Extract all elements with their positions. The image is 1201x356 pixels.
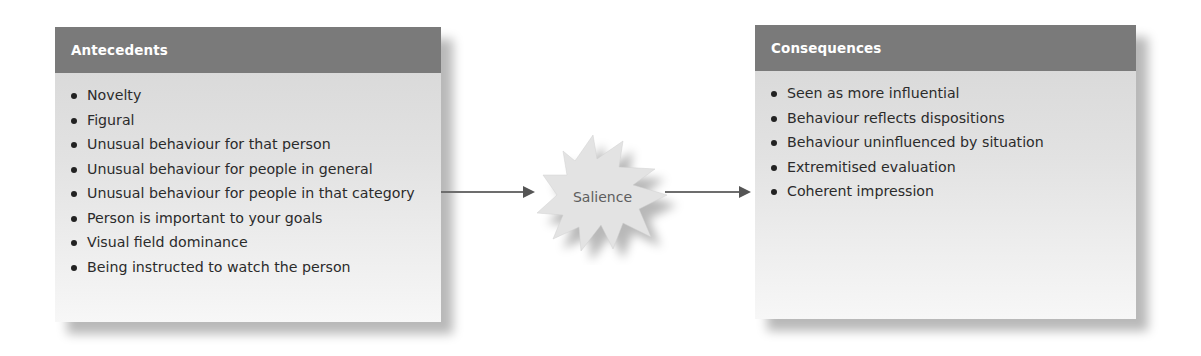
antecedent-item: Unusual behaviour for people in that cat… xyxy=(71,181,431,206)
antecedent-item: Visual field dominance xyxy=(71,230,431,255)
antecedents-list: Novelty Figural Unusual behaviour for th… xyxy=(55,73,441,279)
antecedent-item: Unusual behaviour for people in general xyxy=(71,157,431,182)
antecedent-item: Unusual behaviour for that person xyxy=(71,132,431,157)
consequence-item: Extremitised evaluation xyxy=(771,155,1126,180)
consequences-panel: Consequences Seen as more influential Be… xyxy=(755,25,1136,319)
arrow-to-consequences xyxy=(665,191,749,193)
antecedents-panel: Antecedents Novelty Figural Unusual beha… xyxy=(55,27,441,322)
consequences-list: Seen as more influential Behaviour refle… xyxy=(755,71,1136,204)
consequence-item: Behaviour uninfluenced by situation xyxy=(771,130,1126,155)
consequences-title: Consequences xyxy=(755,25,1136,71)
antecedent-item: Novelty xyxy=(71,83,431,108)
arrowhead-icon xyxy=(739,186,751,198)
salience-label: Salience xyxy=(515,125,690,265)
consequence-item: Behaviour reflects dispositions xyxy=(771,106,1126,131)
consequence-item: Coherent impression xyxy=(771,179,1126,204)
antecedent-item: Figural xyxy=(71,108,431,133)
antecedent-item: Being instructed to watch the person xyxy=(71,255,431,280)
salience-burst: Salience xyxy=(515,125,690,265)
antecedent-item: Person is important to your goals xyxy=(71,206,431,231)
consequence-item: Seen as more influential xyxy=(771,81,1126,106)
antecedents-title: Antecedents xyxy=(55,27,441,73)
